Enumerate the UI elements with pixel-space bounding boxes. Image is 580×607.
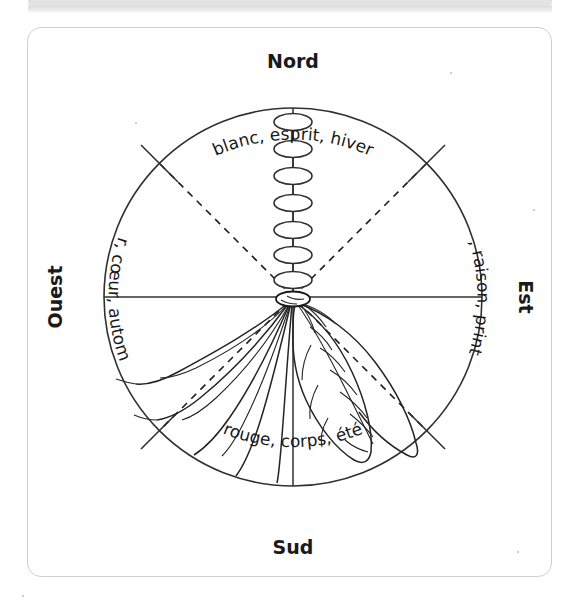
cardinal-south: Sud <box>273 536 314 558</box>
cardinal-north: Nord <box>267 50 319 72</box>
cardinal-east: Est <box>515 280 537 313</box>
west-attributes-label: noir, cœur, automne <box>0 0 135 363</box>
bead-3 <box>274 168 312 185</box>
bead-6 <box>274 247 312 264</box>
bead-7 <box>274 272 312 289</box>
cardinal-west: Ouest <box>44 266 66 329</box>
root-fan <box>116 303 418 483</box>
bead-4 <box>274 195 312 212</box>
bead-5 <box>274 222 312 239</box>
east-attributes-label: jaune, raison, printemps <box>0 0 493 358</box>
compass-diagram: blanc, esprit, hiver rouge, corps, été n… <box>0 0 580 607</box>
